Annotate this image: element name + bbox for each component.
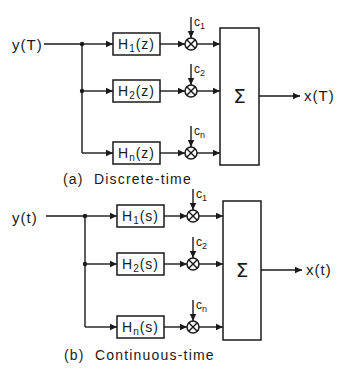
branch-2: H2(s)c2: [83, 235, 223, 275]
branch-1: H1(z)c1: [80, 15, 220, 55]
arrowhead-icon: [293, 93, 300, 99]
arrowhead-icon: [180, 324, 187, 330]
arrowhead-icon: [178, 41, 185, 47]
diagram-caption: (a) Discrete-time: [63, 171, 192, 187]
filter-label: H1(s): [122, 208, 159, 226]
diagram-discrete: y(T)H1(z)c1H2(z)c2Hn(z)cnΣx(T)(a) Discre…: [12, 15, 335, 187]
coefficient-label: c2: [196, 235, 207, 251]
output-signal-label: x(t): [306, 261, 332, 278]
filter-label: H1(z): [118, 36, 155, 54]
arrowhead-icon: [106, 150, 113, 156]
arrowhead-icon: [178, 88, 185, 94]
arrowhead-icon: [110, 324, 117, 330]
arrowhead-icon: [190, 251, 196, 258]
arrowhead-icon: [188, 140, 194, 147]
parallel-filter-bank-figure: y(T)H1(z)c1H2(z)c2Hn(z)cnΣx(T)(a) Discre…: [0, 0, 348, 384]
filter-label: Hn(s): [122, 319, 159, 337]
arrowhead-icon: [180, 261, 187, 267]
diagram-continuous: y(t)H1(s)c1H2(s)c2Hn(s)cnΣx(t)(b) Contin…: [12, 187, 332, 363]
multiplier-icon: [185, 85, 197, 97]
filter-label: Hn(z): [118, 145, 155, 163]
input-signal-label: y(T): [12, 36, 43, 53]
arrowhead-icon: [295, 267, 302, 273]
branch-1: H1(s)c1: [83, 187, 223, 227]
arrowhead-icon: [216, 261, 223, 267]
arrowhead-icon: [216, 213, 223, 219]
branch-n: Hn(s)cn: [85, 298, 223, 338]
arrowhead-icon: [213, 41, 220, 47]
arrowhead-icon: [188, 31, 194, 38]
arrowhead-icon: [106, 88, 113, 94]
filter-label: H2(s): [122, 256, 159, 274]
output-signal-label: x(T): [304, 87, 335, 104]
filter-label: H2(z): [118, 83, 155, 101]
multiplier-icon: [187, 210, 199, 222]
arrowhead-icon: [180, 213, 187, 219]
arrowhead-icon: [213, 150, 220, 156]
coefficient-label: c1: [196, 187, 207, 203]
arrowhead-icon: [213, 88, 220, 94]
input-signal-label: y(t): [12, 209, 38, 226]
sigma-icon: Σ: [236, 258, 249, 282]
arrowhead-icon: [110, 261, 117, 267]
coefficient-label: c2: [194, 62, 205, 78]
sigma-icon: Σ: [233, 84, 246, 108]
diagram-caption: (b) Continuous-time: [64, 347, 215, 363]
block-diagram-canvas: y(T)H1(z)c1H2(z)c2Hn(z)cnΣx(T)(a) Discre…: [0, 0, 348, 384]
arrowhead-icon: [110, 213, 117, 219]
multiplier-icon: [187, 321, 199, 333]
multiplier-icon: [185, 147, 197, 159]
coefficient-label: cn: [196, 298, 207, 314]
branch-n: Hn(z)cn: [82, 124, 220, 164]
arrowhead-icon: [190, 203, 196, 210]
branch-2: H2(z)c2: [80, 62, 220, 102]
multiplier-icon: [187, 258, 199, 270]
arrowhead-icon: [106, 41, 113, 47]
arrowhead-icon: [216, 324, 223, 330]
coefficient-label: cn: [194, 124, 205, 140]
coefficient-label: c1: [194, 15, 205, 31]
arrowhead-icon: [190, 314, 196, 321]
arrowhead-icon: [188, 78, 194, 85]
arrowhead-icon: [178, 150, 185, 156]
multiplier-icon: [185, 38, 197, 50]
